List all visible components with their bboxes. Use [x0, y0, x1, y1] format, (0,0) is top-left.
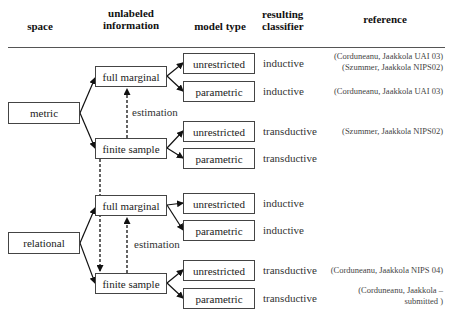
reference-text: (Corduneanu, Jaakkola – submitted ) [358, 285, 443, 307]
space-relational-box: relational [8, 232, 80, 254]
metric-estimation-label: estimation [132, 106, 178, 118]
reference-line: submitted ) [358, 296, 443, 307]
model-box: parametric [183, 148, 255, 169]
classifier-label: transductive [263, 264, 317, 276]
relational-finite-sample-box: finite sample [95, 273, 167, 294]
model-box: unrestricted [183, 121, 255, 142]
model-box: parametric [183, 220, 255, 241]
reference-line: (Corduneanu, Jaakkola UAI 03) [334, 51, 443, 62]
reference-text: (Szummer, Jaakkola NIPS02) [342, 126, 443, 137]
classifier-label: transductive [263, 125, 317, 137]
relational-full-marginal-box: full marginal [95, 195, 167, 216]
classifier-label: inductive [263, 57, 304, 69]
reference-line: (Corduneanu, Jaakkola UAI 03) [334, 86, 443, 97]
classifier-label: inductive [263, 224, 304, 236]
reference-text: (Corduneanu, Jaakkola UAI 03) [334, 86, 443, 97]
classifier-label: inductive [263, 197, 304, 209]
classifier-label: transductive [263, 152, 317, 164]
reference-line: (Corduneanu, Jaakkola – [358, 285, 443, 296]
classifier-label: transductive [263, 292, 317, 304]
space-metric-box: metric [8, 102, 80, 124]
model-box: parametric [183, 81, 255, 102]
metric-finite-sample-box: finite sample [95, 138, 167, 159]
reference-text: (Corduneanu, Jaakkola NIPS 04) [331, 265, 443, 276]
reference-line: (Szummer, Jaakkola NIPS02) [342, 126, 443, 137]
reference-line: (Corduneanu, Jaakkola NIPS 04) [331, 265, 443, 276]
relational-estimation-label: estimation [134, 238, 180, 250]
reference-text: (Corduneanu, Jaakkola UAI 03) (Szummer, … [334, 51, 443, 73]
classifier-label: inductive [263, 85, 304, 97]
model-box: unrestricted [183, 260, 255, 281]
model-box: parametric [183, 288, 255, 309]
metric-full-marginal-box: full marginal [95, 66, 167, 87]
model-box: unrestricted [183, 193, 255, 214]
model-box: unrestricted [183, 53, 255, 74]
reference-line: (Szummer, Jaakkola NIPS02) [334, 62, 443, 73]
